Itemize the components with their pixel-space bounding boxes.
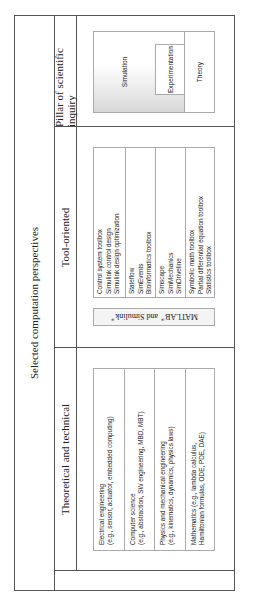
column-divider-1 [54, 347, 235, 348]
registered-mark: ® [160, 317, 165, 322]
toolbox-group: Control system toolbox Simulink control … [94, 148, 125, 297]
computation-perspectives-table: Selected computation perspectives Theore… [14, 15, 235, 591]
header-theoretical: Theoretical and technical [54, 348, 76, 571]
left-strip-divider [54, 570, 235, 571]
item-title: Mathematics (e.g., lambda calculus, [190, 374, 198, 545]
theory-label: Theory [184, 31, 215, 113]
item-detail: (e.g., sensor, actuator, embedded comput… [106, 374, 114, 545]
item-title: Electrical engineering [98, 374, 106, 545]
toolbox-item: Simscape [158, 151, 167, 294]
toolbox-item: SimDriveline [175, 151, 184, 294]
item-detail: (e.g., kinematics, dynamics, physics law… [167, 374, 175, 545]
matlab-simulink-label: MATLAB® and Simulink® [93, 308, 215, 326]
toolbox-item: Control system toolbox [96, 151, 105, 294]
toolbox-item: Partial differential equation toolbox [197, 151, 206, 294]
column-divider-2 [54, 126, 235, 127]
registered-mark: ® [110, 317, 115, 322]
toolbox-item: Simulink control design [105, 151, 114, 294]
toolbox-item: Stateflow [128, 151, 137, 294]
toolbox-item: Symbolic math toolbox [188, 151, 197, 294]
theoretical-item: Mathematics (e.g., lambda calculus, Hami… [185, 369, 215, 550]
toolbox-group: Simscape SimMechanics SimDriveline [155, 148, 185, 297]
toolbox-group: Stateflow SimEvents Bioinformatics toolb… [125, 148, 155, 297]
matlab-name: MATLAB [165, 312, 198, 321]
theoretical-list: Electrical engineering (e.g., sensor, ac… [93, 368, 215, 551]
item-detail: (e.g., abstraction, SW engineering, MBD,… [137, 374, 145, 545]
theoretical-item: Computer science (e.g., abstraction, SW … [124, 369, 154, 550]
simulink-name: and Simulink [115, 312, 160, 321]
theoretical-item: Electrical engineering (e.g., sensor, ac… [94, 369, 124, 550]
simulation-label: Simulation [94, 32, 154, 112]
toolbox-item: Statistics toolbox [205, 151, 214, 294]
theoretical-item: Physics and mechanical engineering (e.g.… [154, 369, 185, 550]
toolbox-group: Symbolic math toolbox Partial differenti… [185, 148, 215, 297]
item-detail: Hamiltonian formulas, ODE, PDE, DAE) [198, 374, 206, 545]
toolbox-item: Simulink design optimization [113, 151, 122, 294]
item-title: Computer science [129, 374, 137, 545]
item-title: Physics and mechanical engineering [159, 374, 167, 545]
toolbox-item: SimEvents [137, 151, 146, 294]
pillar-graphic: Simulation Experimentation Theory [93, 31, 215, 113]
toolbox-item: Bioinformatics toolbox [145, 151, 154, 294]
header-pillar: Pillar of scientific inquiry [54, 15, 76, 127]
experimentation-label: Experimentation [155, 44, 185, 95]
header-tool-oriented: Tool-oriented [54, 127, 76, 348]
toolbox-item: SimMechanics [167, 151, 176, 294]
table-title: Selected computation perspectives [14, 15, 54, 591]
toolbox-list: Control system toolbox Simulink control … [93, 147, 215, 298]
